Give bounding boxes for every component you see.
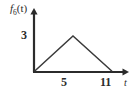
triangular-pulse-figure: f6(t) 3 5 11 t bbox=[0, 0, 134, 97]
signal-waveform bbox=[35, 36, 113, 71]
y-axis-label-argument: (t) bbox=[17, 2, 27, 14]
x-axis-arrow-icon bbox=[123, 69, 130, 76]
x-tick-label-11: 11 bbox=[100, 76, 111, 88]
x-tick-label-5: 5 bbox=[61, 76, 67, 88]
y-axis-arrow-icon bbox=[30, 8, 37, 15]
y-axis-label: f6(t) bbox=[10, 3, 27, 17]
y-tick-label-3: 3 bbox=[21, 29, 27, 41]
x-axis-label: t bbox=[124, 78, 127, 88]
